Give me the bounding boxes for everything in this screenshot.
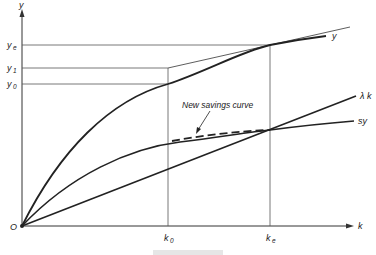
- caption-remnant: [153, 250, 223, 255]
- k0-label: k: [164, 233, 169, 243]
- axes: [20, 9, 355, 229]
- y1-label-sub: 1: [13, 67, 17, 74]
- curve-lambda-k-label: λ k: [359, 91, 372, 101]
- line-lambda-k: [22, 96, 356, 226]
- y0-label: y: [6, 79, 12, 89]
- y1-label: y: [6, 63, 12, 73]
- y0-label-sub: 0: [13, 83, 17, 90]
- y-axis-arrow-icon: [20, 9, 25, 17]
- curve-y-label: y: [331, 31, 337, 41]
- ke-label: k: [266, 233, 271, 243]
- y-axis-label: y: [18, 0, 24, 10]
- curve-sy-label: sy: [358, 116, 368, 126]
- annotation-arrow-icon: [196, 111, 210, 134]
- ke-label-sub: e: [272, 237, 276, 244]
- curve-y: [22, 36, 326, 226]
- ye-label-sub: e: [13, 44, 17, 51]
- k0-label-sub: 0: [170, 237, 174, 244]
- ye-label: y: [6, 40, 12, 50]
- growth-model-diagram: y k O y e y 1 y 0 k 0 k e y λ k sy New s…: [0, 0, 376, 255]
- annotation-label: New savings curve: [182, 100, 254, 110]
- x-axis-arrow-icon: [346, 224, 354, 229]
- origin-label: O: [10, 222, 17, 232]
- x-axis-label: k: [358, 221, 363, 231]
- curve-sy: [22, 121, 354, 226]
